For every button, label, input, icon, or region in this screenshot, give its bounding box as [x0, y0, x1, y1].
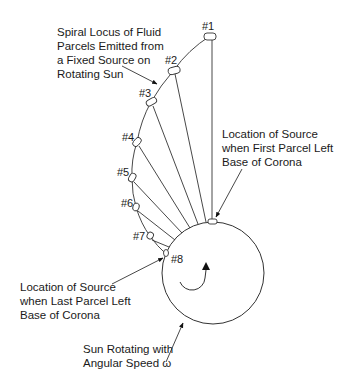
first-source-annotation-line: Base of Corona [222, 155, 333, 169]
parcel-label-7: #7 [133, 230, 145, 242]
first-source-leader-line [216, 169, 242, 217]
spiral-annotation-line: Parcels Emitted from [57, 39, 164, 53]
sun-circle [162, 222, 264, 324]
first-source-annotation-line: when First Parcel Left [222, 141, 333, 155]
parcel-label-1: #1 [202, 20, 214, 32]
first-source-annotation: Location of Source when First Parcel Lef… [222, 127, 333, 169]
last-source-annotation-line: Location of Source [20, 280, 131, 294]
spiral-annotation-line: Rotating Sun [57, 67, 164, 81]
parcel-label-2: #2 [165, 54, 177, 66]
parcel-label-8: #8 [171, 253, 183, 265]
parcel-label-3: #3 [139, 87, 151, 99]
spiral-annotation: Spiral Locus of Fluid Parcels Emitted fr… [57, 25, 164, 81]
parcel-label-5: #5 [117, 166, 129, 178]
rotation-arrowhead-icon [202, 262, 210, 270]
sun-annotation-line: Sun Rotating with [83, 342, 173, 356]
spiral-annotation-line: a Fixed Source on [57, 53, 164, 67]
last-source-annotation-line: Base of Corona [20, 308, 131, 322]
parcel-8 [164, 250, 169, 257]
parcel-label-4: #4 [122, 131, 134, 143]
spiral-annotation-line: Spiral Locus of Fluid [57, 25, 164, 39]
first-source-annotation-line: Location of Source [222, 127, 333, 141]
sun-annotation: Sun Rotating with Angular Speed ω [83, 342, 173, 370]
parcel-label-6: #6 [121, 197, 133, 209]
rotation-arrow-icon [180, 270, 206, 290]
source-marker [208, 219, 217, 224]
parcel-2 [167, 66, 180, 76]
parcel-1 [204, 33, 216, 40]
last-source-annotation-line: when Last Parcel Left [20, 294, 131, 308]
sun-annotation-line: Angular Speed ω [83, 356, 173, 370]
last-source-annotation: Location of Source when Last Parcel Left… [20, 280, 131, 322]
